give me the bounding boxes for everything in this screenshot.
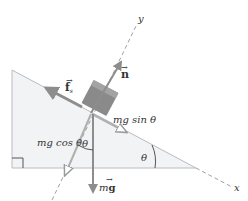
normal-vector-bar: → <box>121 63 128 72</box>
incline-angle-label: θ <box>141 152 147 163</box>
incline-plane <box>12 70 196 168</box>
friction-vector-bar: → <box>66 76 73 85</box>
gravity-vector-bar: → <box>106 175 113 184</box>
y-axis-label: y <box>137 13 144 24</box>
mg-cos-label: mg cos θ <box>37 137 82 148</box>
incline-diagram: x y fs → n → mg sin θ mg cos θ θ θ mg → <box>0 0 248 201</box>
mg-sin-label: mg sin θ <box>113 114 156 125</box>
x-axis <box>196 168 232 187</box>
x-axis-label: x <box>234 182 240 193</box>
gravity-angle-label: θ <box>82 138 88 149</box>
